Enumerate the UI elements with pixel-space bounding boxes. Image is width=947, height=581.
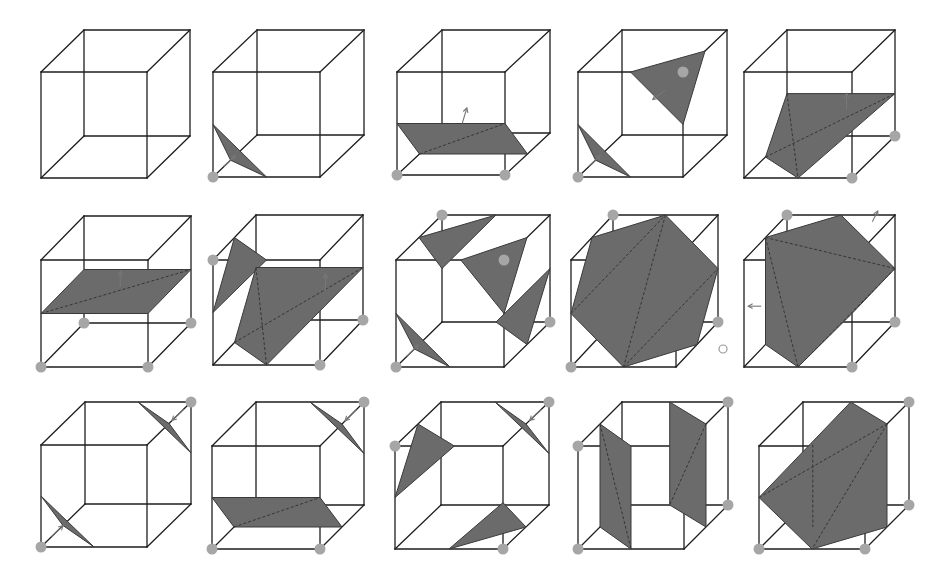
cube-case-1 xyxy=(208,30,365,183)
cube-edge xyxy=(505,30,550,72)
inside-vertex-marker xyxy=(500,170,511,181)
inside-vertex-marker xyxy=(723,397,734,408)
inside-vertex-marker xyxy=(143,362,154,373)
normal-arrow-icon xyxy=(462,108,468,123)
cube-case-11 xyxy=(207,397,370,555)
inside-vertex-marker xyxy=(36,542,47,553)
isosurface-polygon xyxy=(766,215,896,367)
inside-vertex-marker xyxy=(315,544,326,555)
inside-vertex-marker xyxy=(36,362,47,373)
cube-case-10 xyxy=(36,397,197,553)
cube-case-12 xyxy=(390,397,555,555)
cube-edge xyxy=(147,136,190,178)
isosurface-polygon xyxy=(395,424,454,498)
normal-arrow-icon xyxy=(345,409,356,420)
cube-edge xyxy=(397,30,442,72)
cube-edge xyxy=(320,30,364,72)
cube-edge xyxy=(147,30,190,72)
inside-vertex-marker xyxy=(207,544,218,555)
inside-vertex-marker xyxy=(186,397,197,408)
inside-vertex-marker xyxy=(544,397,555,408)
normal-arrow-icon xyxy=(172,409,183,420)
cube-case-7 xyxy=(391,210,556,373)
inside-vertex-marker xyxy=(392,170,403,181)
inside-vertex-marker xyxy=(391,362,402,373)
stray-circle-mark xyxy=(719,345,727,353)
cube-edge xyxy=(683,135,727,177)
inside-vertex-marker xyxy=(847,173,858,184)
inside-vertex-marker xyxy=(573,441,584,452)
cube-edge xyxy=(578,30,622,72)
cube-edge xyxy=(852,30,895,72)
normal-arrow-icon xyxy=(530,409,542,420)
cube-edge xyxy=(148,323,191,367)
cube-case-4 xyxy=(744,30,901,184)
cube-edge xyxy=(41,216,84,260)
cube-edge xyxy=(759,402,803,446)
inside-vertex-marker xyxy=(608,210,619,221)
inside-vertex-marker xyxy=(904,397,915,408)
cube-edge xyxy=(147,504,191,547)
cube-edge xyxy=(395,505,441,549)
inside-vertex-marker xyxy=(359,397,370,408)
inside-vertex-marker xyxy=(754,544,765,555)
cube-case-2 xyxy=(392,30,551,181)
cube-edge xyxy=(41,402,85,445)
cube-edge xyxy=(852,136,895,178)
isosurface-polygon xyxy=(449,503,526,549)
isosurface-polygon xyxy=(235,268,364,366)
inside-vertex-marker xyxy=(186,318,197,329)
cube-edge xyxy=(852,322,895,367)
cube-case-5 xyxy=(36,216,197,373)
marching-cubes-figure xyxy=(0,0,947,581)
normal-arrow-icon xyxy=(52,526,63,537)
isosurface-polygon xyxy=(600,424,631,549)
inside-vertex-marker xyxy=(782,210,793,221)
inside-vertex-marker xyxy=(208,172,219,183)
isosurface-polygon xyxy=(670,402,706,527)
cube-case-14 xyxy=(754,397,915,555)
cube-case-13 xyxy=(573,397,734,555)
inside-vertex-marker xyxy=(573,172,584,183)
inside-vertex-marker xyxy=(437,210,448,221)
inside-vertex-marker xyxy=(713,317,724,328)
inside-vertex-marker xyxy=(573,544,584,555)
inside-vertex-marker xyxy=(79,318,90,329)
isosurface-polygon xyxy=(759,402,887,549)
inside-vertex-marker xyxy=(890,317,901,328)
cube-edge xyxy=(320,135,364,177)
cube-case-0 xyxy=(41,30,190,178)
inside-vertex-marker xyxy=(678,67,689,78)
cube-edge xyxy=(320,215,363,260)
cube-case-6 xyxy=(208,215,369,371)
inside-vertex-marker xyxy=(860,544,871,555)
cube-wireframe xyxy=(41,30,190,178)
cube-case-9 xyxy=(744,210,901,373)
inside-vertex-marker xyxy=(498,544,509,555)
inside-vertex-marker xyxy=(390,441,401,452)
inside-vertex-marker xyxy=(208,255,219,266)
inside-vertex-marker xyxy=(358,315,369,326)
inside-vertex-marker xyxy=(904,500,915,511)
inside-vertex-marker xyxy=(723,500,734,511)
inside-vertex-marker xyxy=(545,317,556,328)
normal-arrow-icon xyxy=(872,211,878,222)
cube-case-3 xyxy=(573,30,728,183)
cube-edge xyxy=(41,323,84,367)
cube-edge xyxy=(212,402,256,446)
normal-arrow-icon xyxy=(407,345,418,356)
cube-edge xyxy=(320,320,363,365)
cube-edge xyxy=(41,136,84,178)
cube-edge xyxy=(148,216,191,260)
inside-vertex-marker xyxy=(847,362,858,373)
cube-case-8 xyxy=(566,210,728,373)
inside-vertex-marker xyxy=(890,131,901,142)
isosurface-polygon xyxy=(631,51,706,125)
inside-vertex-marker xyxy=(499,255,510,266)
cube-edge xyxy=(213,30,257,72)
normal-arrow-icon xyxy=(748,304,761,309)
inside-vertex-marker xyxy=(566,362,577,373)
inside-vertex-marker xyxy=(315,360,326,371)
cube-edge xyxy=(41,30,84,72)
cube-edge xyxy=(744,30,787,72)
